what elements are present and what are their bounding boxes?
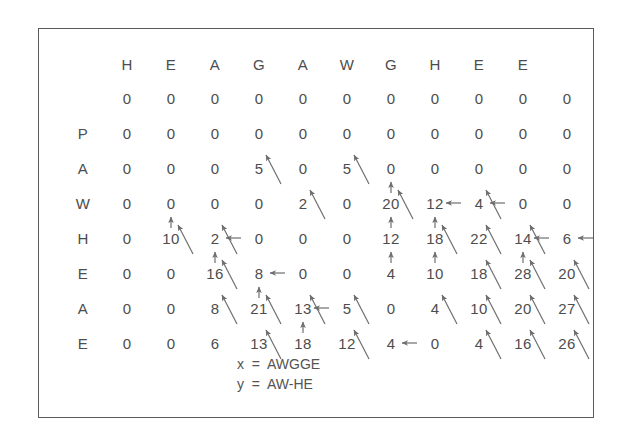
matrix-cell: 0 (545, 196, 589, 211)
matrix-cell: 16 (193, 266, 237, 281)
column-header: H (413, 57, 457, 72)
matrix-cell: 13 (237, 336, 281, 351)
matrix-cell: 0 (413, 91, 457, 106)
matrix-cell: 0 (193, 91, 237, 106)
legend-sequence-x: x = AWGGE (237, 355, 320, 373)
matrix-cell: 12 (369, 231, 413, 246)
matrix-cell: 0 (105, 231, 149, 246)
matrix-cell: 0 (457, 161, 501, 176)
matrix-cell: 12 (413, 196, 457, 211)
column-header: E (149, 57, 193, 72)
matrix-cell: 20 (369, 196, 413, 211)
matrix-cell: 5 (325, 301, 369, 316)
matrix-cell: 4 (457, 196, 501, 211)
matrix-cell: 0 (105, 336, 149, 351)
matrix-cell: 5 (325, 161, 369, 176)
matrix-cell: 0 (501, 91, 545, 106)
matrix-cell: 5 (237, 161, 281, 176)
matrix-cell: 0 (501, 196, 545, 211)
matrix-cell: 0 (193, 161, 237, 176)
matrix-cell: 28 (501, 266, 545, 281)
row-header: E (61, 336, 105, 351)
column-header: E (501, 57, 545, 72)
matrix-cell: 10 (457, 301, 501, 316)
matrix-cell: 26 (545, 336, 589, 351)
matrix-cell: 0 (105, 196, 149, 211)
column-header: A (193, 57, 237, 72)
matrix-cell: 0 (193, 126, 237, 141)
matrix-cell: 0 (545, 161, 589, 176)
matrix-cell: 0 (545, 126, 589, 141)
column-header: G (237, 57, 281, 72)
matrix-cell: 2 (193, 231, 237, 246)
matrix-cell: 0 (149, 301, 193, 316)
matrix-cell: 4 (457, 336, 501, 351)
matrix-cell: 22 (457, 231, 501, 246)
matrix-cell: 0 (281, 231, 325, 246)
matrix-cell: 0 (545, 91, 589, 106)
matrix-cell: 0 (281, 126, 325, 141)
matrix-cell: 0 (457, 91, 501, 106)
matrix-cell: 8 (193, 301, 237, 316)
row-header: E (61, 266, 105, 281)
matrix-cell: 0 (237, 231, 281, 246)
matrix-cell: 12 (325, 336, 369, 351)
matrix-cell: 16 (501, 336, 545, 351)
matrix-cell: 0 (149, 196, 193, 211)
matrix-cell: 0 (369, 301, 413, 316)
column-header: H (105, 57, 149, 72)
matrix-cell: 6 (193, 336, 237, 351)
matrix-cell: 8 (237, 266, 281, 281)
matrix-cell: 20 (501, 301, 545, 316)
matrix-cell: 0 (413, 161, 457, 176)
row-header: A (61, 301, 105, 316)
matrix-cell: 0 (193, 196, 237, 211)
matrix-cell: 4 (369, 336, 413, 351)
matrix-cell: 4 (369, 266, 413, 281)
column-header: E (457, 57, 501, 72)
matrix-cell: 18 (281, 336, 325, 351)
matrix-cell: 10 (413, 266, 457, 281)
figure-border: HEAGAWGHEEPAWHEAE00000000000000000000000… (38, 28, 594, 418)
matrix-cell: 20 (545, 266, 589, 281)
matrix-cell: 14 (501, 231, 545, 246)
matrix-cell: 0 (105, 266, 149, 281)
column-header: G (369, 57, 413, 72)
legend-sequence-y: y = AW-HE (237, 375, 313, 393)
matrix-cell: 0 (149, 126, 193, 141)
matrix-cell: 27 (545, 301, 589, 316)
matrix-cell: 0 (149, 266, 193, 281)
matrix-cell: 0 (369, 161, 413, 176)
matrix-cell: 0 (105, 301, 149, 316)
matrix-cell: 0 (105, 126, 149, 141)
matrix-cell: 0 (105, 91, 149, 106)
matrix-cell: 0 (149, 336, 193, 351)
matrix-cell: 0 (501, 126, 545, 141)
matrix-cell: 0 (237, 91, 281, 106)
matrix-cell: 0 (237, 126, 281, 141)
matrix-cell: 6 (545, 231, 589, 246)
matrix-cell: 0 (325, 266, 369, 281)
column-header: A (281, 57, 325, 72)
row-header: W (61, 196, 105, 211)
matrix-cell: 0 (325, 231, 369, 246)
row-header: A (61, 161, 105, 176)
row-header: P (61, 126, 105, 141)
matrix-cell: 0 (281, 266, 325, 281)
matrix-cell: 4 (413, 301, 457, 316)
matrix-cell: 0 (325, 126, 369, 141)
matrix-cell: 0 (325, 196, 369, 211)
matrix-cell: 0 (369, 126, 413, 141)
matrix-cell: 13 (281, 301, 325, 316)
matrix-cell: 0 (325, 91, 369, 106)
matrix-cell: 0 (369, 91, 413, 106)
matrix-cell: 10 (149, 231, 193, 246)
matrix-cell: 0 (149, 91, 193, 106)
matrix-cell: 18 (413, 231, 457, 246)
matrix-cell: 0 (413, 336, 457, 351)
matrix-cell: 21 (237, 301, 281, 316)
matrix-cell: 0 (501, 161, 545, 176)
matrix-cell: 2 (281, 196, 325, 211)
row-header: H (61, 231, 105, 246)
matrix-cell: 0 (149, 161, 193, 176)
